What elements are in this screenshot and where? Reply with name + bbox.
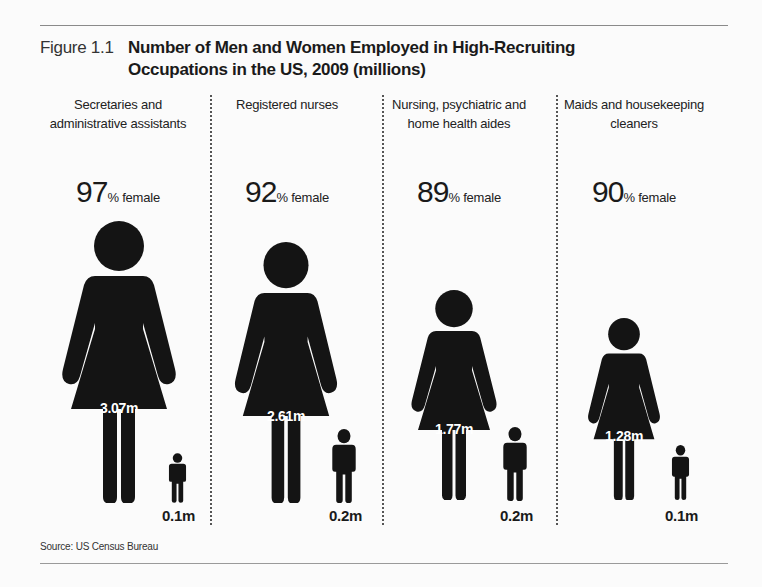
percent-value: 89 xyxy=(417,175,448,208)
percent-female: 89% female xyxy=(384,175,556,209)
man-icon xyxy=(671,445,690,500)
percent-suffix: % female xyxy=(448,190,501,205)
woman-icon: 1.77m xyxy=(409,290,499,500)
occupation-label: Nursing, psychiatric and home health aid… xyxy=(384,95,556,133)
panel-nursing-aides: Nursing, psychiatric and home health aid… xyxy=(384,95,556,535)
women-count: 1.77m xyxy=(409,421,499,437)
women-count: 2.61m xyxy=(232,408,340,424)
occupation-label: Secretaries and administrative assistant… xyxy=(40,95,210,133)
percent-suffix: % female xyxy=(107,190,160,205)
percent-value: 90 xyxy=(592,175,623,208)
figure-title: Number of Men and Women Employed in High… xyxy=(128,37,648,81)
man-icon xyxy=(168,453,187,503)
woman-icon: 2.61m xyxy=(232,242,340,503)
occupation-label: Maids and housekeeping cleaners xyxy=(558,95,730,133)
percent-female: 90% female xyxy=(558,175,730,209)
panel-registered-nurses: Registered nurses 92% female 2.61m 0.2m xyxy=(212,95,382,535)
percent-value: 97 xyxy=(76,175,107,208)
woman-icon: 3.07m xyxy=(59,221,179,503)
source-note: Source: US Census Bureau xyxy=(40,541,158,552)
percent-value: 92 xyxy=(245,175,276,208)
man-icon xyxy=(331,429,357,503)
women-count: 1.28m xyxy=(586,428,662,444)
men-count: 0.2m xyxy=(500,507,533,524)
men-count: 0.1m xyxy=(162,507,195,524)
bottom-rule xyxy=(40,563,728,564)
panel-secretaries: Secretaries and administrative assistant… xyxy=(40,95,210,535)
women-count: 3.07m xyxy=(59,400,179,416)
percent-female: 92% female xyxy=(212,175,382,209)
percent-suffix: % female xyxy=(623,190,676,205)
men-count: 0.2m xyxy=(329,507,362,524)
men-count: 0.1m xyxy=(665,507,698,524)
figure-label: Figure 1.1 xyxy=(40,38,114,58)
top-rule xyxy=(40,25,728,26)
panel-maids: Maids and housekeeping cleaners 90% fema… xyxy=(558,95,730,535)
occupation-label: Registered nurses xyxy=(212,95,382,114)
man-icon xyxy=(502,427,528,501)
percent-female: 97% female xyxy=(40,175,210,209)
woman-icon: 1.28m xyxy=(586,318,662,500)
percent-suffix: % female xyxy=(276,190,329,205)
